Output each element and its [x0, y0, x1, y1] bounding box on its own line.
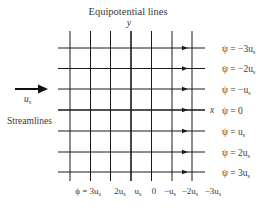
flow-arrow [15, 85, 48, 94]
streamline-label: ψ = 2us [222, 148, 251, 159]
flow-arrow-head-icon [38, 85, 48, 94]
streamline-labels: ψ = −3usψ = −2usψ = −usψ = 0ψ = usψ = 2u… [222, 44, 256, 179]
flow-net-diagram: Equipotential lines y ψ = −3usψ = −2usψ … [0, 0, 258, 210]
streamline-arrow-icon [182, 46, 188, 50]
equipotential-label: −2us [182, 186, 199, 197]
streamline-label: ψ = −3us [222, 44, 256, 55]
streamline-arrow-icon [182, 170, 188, 174]
flow-arrow-label: us [24, 94, 32, 105]
equipotential-label: ϕ = 3us [75, 186, 101, 197]
equipotential-labels: ϕ = 3us2usus0−us−2us−3us [75, 186, 222, 197]
streamline-arrow-icon [182, 150, 188, 154]
streamline-label: ψ = −us [222, 85, 251, 96]
x-axis-label: x [209, 105, 215, 115]
streamline-arrow-icon [182, 108, 188, 112]
streamline-label: ψ = −2us [222, 64, 256, 75]
y-axis-label: y [126, 17, 132, 28]
equipotential-label: −3us [205, 186, 222, 197]
equipotential-label: 0 [152, 186, 157, 196]
equipotential-label: 2us [114, 186, 126, 197]
streamline-label: ψ = us [222, 127, 246, 138]
streamlines-label: Streamlines [7, 116, 52, 126]
streamline-label: ψ = 0 [222, 106, 243, 116]
streamline-arrow-icon [182, 87, 188, 91]
streamline-arrow-icon [182, 129, 188, 133]
equipotential-lines [70, 31, 192, 181]
streamline-arrow-icon [182, 66, 188, 70]
streamline-label: ψ = 3us [222, 168, 251, 179]
equipotential-label: −us [164, 186, 177, 197]
equipotential-label: us [135, 186, 143, 197]
diagram-title: Equipotential lines [88, 6, 167, 17]
